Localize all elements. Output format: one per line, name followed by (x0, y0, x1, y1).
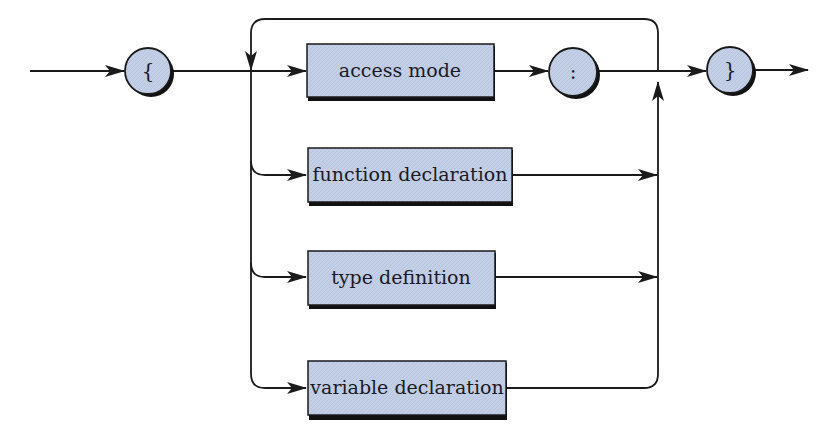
box-function-declaration: function declaration (308, 148, 513, 206)
terminal-close-brace: } (707, 47, 756, 96)
colon-label: : (570, 60, 577, 84)
terminal-open-brace: { (125, 48, 174, 97)
terminal-colon: : (549, 48, 600, 99)
box-access-mode: access mode (307, 44, 495, 101)
box-variable-declaration: variable declaration (308, 361, 507, 420)
function-declaration-label: function declaration (313, 163, 508, 185)
type-definition-label: type definition (331, 266, 471, 288)
syntax-diagram: { : } access mode function declaration t… (0, 0, 833, 448)
open-brace-label: { (142, 59, 155, 83)
close-brace-label: } (724, 58, 737, 82)
right-rail (507, 82, 658, 388)
box-type-definition: type definition (308, 251, 496, 309)
access-mode-label: access mode (339, 59, 461, 81)
variable-declaration-label: variable declaration (309, 376, 503, 398)
left-rail (251, 71, 306, 388)
branch-type (251, 263, 306, 277)
branch-function (251, 161, 306, 175)
